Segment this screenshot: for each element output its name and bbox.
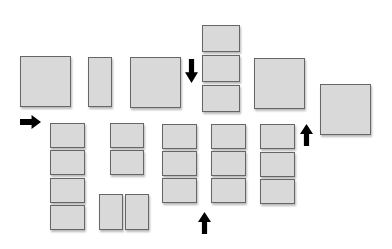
arrow-right-icon (20, 115, 41, 129)
box-large-box-5 (320, 84, 371, 135)
box-col1-3 (50, 178, 85, 203)
box-col4-3 (211, 178, 246, 203)
box-stack-top-2 (202, 55, 240, 82)
box-large-box-1 (20, 56, 71, 107)
box-col3-2 (162, 151, 197, 176)
box-stack-top-1 (202, 25, 240, 52)
box-col2-1 (110, 123, 144, 148)
box-col1-4 (50, 205, 85, 230)
box-tall-box-2 (88, 57, 112, 107)
box-stack-top-3 (202, 85, 240, 112)
arrow-down-icon (185, 59, 198, 83)
arrow-up-mid-icon (198, 212, 211, 234)
box-col4-1 (211, 124, 246, 149)
box-pair-right (125, 194, 149, 230)
box-col1-2 (50, 150, 85, 175)
diagram-canvas (0, 0, 392, 249)
box-col5-3 (260, 179, 295, 204)
box-col1-1 (50, 123, 85, 148)
box-col5-2 (260, 152, 295, 177)
box-large-box-3 (130, 57, 181, 108)
box-col3-1 (162, 124, 197, 149)
box-col4-2 (211, 151, 246, 176)
box-pair-left (99, 194, 123, 230)
box-col5-1 (260, 124, 295, 149)
box-col3-3 (162, 178, 197, 203)
arrow-up-right-icon (300, 124, 313, 146)
box-large-box-4 (254, 58, 305, 109)
box-col2-2 (110, 150, 144, 175)
